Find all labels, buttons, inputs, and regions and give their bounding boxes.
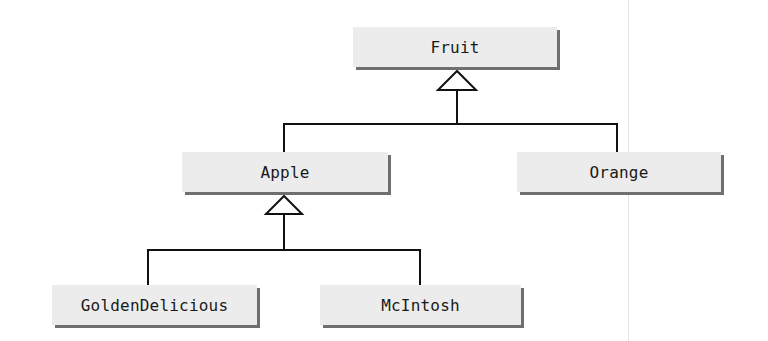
class-name: Fruit (430, 38, 479, 57)
class-box-apple[interactable]: Apple (182, 152, 388, 192)
class-name: GoldenDelicious (81, 296, 229, 315)
generalization-arrowhead-icon (266, 196, 302, 214)
class-name: Apple (260, 163, 309, 182)
class-name: McIntosh (381, 296, 460, 315)
class-box-mcintosh[interactable]: McIntosh (320, 285, 521, 325)
class-box-orange[interactable]: Orange (517, 152, 721, 192)
class-name: Orange (590, 163, 649, 182)
class-box-golden-delicious[interactable]: GoldenDelicious (52, 285, 257, 325)
class-box-fruit[interactable]: Fruit (353, 27, 557, 67)
generalization-arrowhead-icon (438, 71, 476, 90)
